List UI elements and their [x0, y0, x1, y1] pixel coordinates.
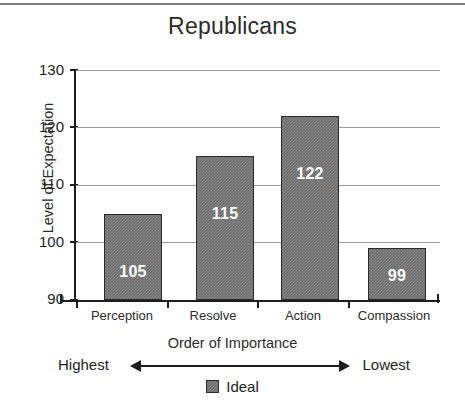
figure-top-rule — [0, 3, 465, 5]
bar-value-action: 122 — [282, 165, 338, 183]
arrow-head-right-icon — [339, 360, 350, 372]
chart-figure: Republicans Level of Expectation 130 120… — [0, 0, 465, 412]
bar-compassion[interactable]: 99 — [368, 248, 426, 300]
gridline-130 — [76, 70, 440, 71]
x-axis-left-cap — [60, 294, 62, 303]
bar-value-perception: 105 — [105, 263, 161, 281]
x-axis-line — [60, 300, 440, 302]
order-of-importance-arrow: Highest Lowest — [0, 354, 465, 376]
y-tick-label-130: 130 — [18, 61, 64, 78]
bar-perception[interactable]: 105 — [104, 214, 162, 300]
x-category-label-compassion: Compassion — [345, 308, 443, 323]
arrow-label-highest: Highest — [58, 356, 109, 373]
y-tick-label-100: 100 — [18, 233, 64, 250]
x-axis-title: Order of Importance — [0, 335, 465, 351]
y-tick-label-110: 110 — [18, 175, 64, 192]
x-category-label-resolve: Resolve — [167, 308, 259, 323]
x-tick-mark-3 — [348, 300, 350, 308]
bar-value-compassion: 99 — [369, 267, 425, 285]
legend-label-ideal: Ideal — [226, 378, 259, 395]
bar-resolve[interactable]: 115 — [196, 156, 254, 300]
y-tick-label-90: 90 — [18, 290, 64, 307]
plot-area: 105 115 122 99 — [76, 70, 440, 300]
legend-swatch-ideal — [206, 380, 219, 393]
chart-legend: Ideal — [0, 378, 465, 395]
arrow-shaft — [140, 365, 340, 367]
x-tick-mark-1 — [167, 300, 169, 308]
arrow-label-lowest: Lowest — [362, 356, 410, 373]
x-category-label-action: Action — [257, 308, 349, 323]
gridline-120 — [76, 127, 440, 128]
x-tick-mark-2 — [257, 300, 259, 308]
gridline-110 — [76, 185, 440, 186]
bar-value-resolve: 115 — [197, 205, 253, 223]
x-tick-mark-0 — [76, 300, 78, 308]
bar-action[interactable]: 122 — [281, 116, 339, 300]
y-tick-label-120: 120 — [18, 118, 64, 135]
chart-title: Republicans — [0, 13, 465, 40]
x-category-label-perception: Perception — [76, 308, 168, 323]
